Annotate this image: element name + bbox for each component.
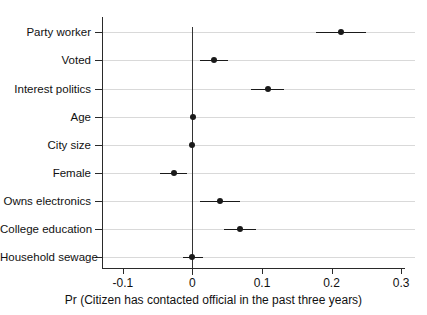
y-axis-label-voted: Voted bbox=[0, 54, 91, 66]
plot-area bbox=[102, 17, 415, 268]
x-tick-label: -0.1 bbox=[98, 276, 148, 290]
data-point bbox=[237, 226, 243, 232]
x-axis-line bbox=[102, 268, 405, 269]
x-tick bbox=[262, 268, 263, 274]
y-tick bbox=[95, 117, 102, 118]
y-tick bbox=[95, 145, 102, 146]
y-axis-label-age: Age bbox=[0, 111, 91, 123]
y-axis-label-party-worker: Party worker bbox=[0, 26, 91, 38]
x-tick-label: 0.1 bbox=[237, 276, 287, 290]
x-axis-title: Pr (Citizen has contacted official in th… bbox=[0, 293, 427, 307]
data-point bbox=[189, 142, 195, 148]
x-tick-label: 0 bbox=[167, 276, 217, 290]
y-axis-label-owns-electronics: Owns electronics bbox=[0, 195, 91, 207]
x-tick bbox=[123, 268, 124, 274]
y-axis-line bbox=[102, 17, 103, 269]
gridline bbox=[102, 60, 415, 61]
y-axis-label-city-size: City size bbox=[0, 139, 91, 151]
data-point bbox=[211, 57, 217, 63]
x-tick-label: 0.3 bbox=[376, 276, 426, 290]
y-tick bbox=[95, 32, 102, 33]
gridline bbox=[102, 145, 415, 146]
x-tick-label: 0.2 bbox=[307, 276, 357, 290]
y-axis-label-female: Female bbox=[0, 167, 91, 179]
y-tick bbox=[95, 173, 102, 174]
data-point bbox=[171, 170, 177, 176]
zero-reference-line bbox=[192, 27, 193, 275]
y-tick bbox=[95, 60, 102, 61]
y-tick bbox=[95, 201, 102, 202]
y-axis-label-college-education: College education bbox=[0, 223, 91, 235]
y-tick bbox=[95, 229, 102, 230]
y-axis-label-interest-politics: Interest politics bbox=[0, 83, 91, 95]
x-tick bbox=[401, 268, 402, 274]
gridline bbox=[102, 201, 415, 202]
x-tick bbox=[192, 268, 193, 274]
data-point bbox=[338, 29, 344, 35]
y-tick bbox=[95, 89, 102, 90]
gridline bbox=[102, 173, 415, 174]
x-tick bbox=[332, 268, 333, 274]
data-point bbox=[265, 86, 271, 92]
gridline bbox=[102, 32, 415, 33]
data-point bbox=[190, 114, 196, 120]
data-point bbox=[217, 198, 223, 204]
gridline bbox=[102, 117, 415, 118]
coefficient-plot-figure: Party workerVotedInterest politicsAgeCit… bbox=[0, 0, 427, 315]
gridline bbox=[102, 229, 415, 230]
y-axis-label-household-sewage: Household sewage bbox=[0, 251, 91, 263]
data-point bbox=[189, 254, 195, 260]
gridline bbox=[102, 257, 415, 258]
